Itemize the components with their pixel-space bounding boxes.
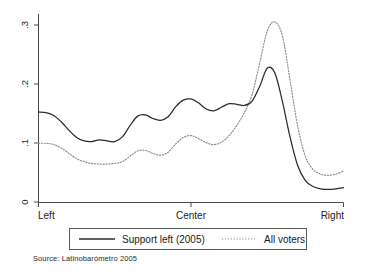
x-tick-label-center: Center: [176, 210, 207, 221]
x-tick-label-left: Left: [38, 210, 55, 221]
plot-axes: [39, 14, 344, 203]
chart-figure: .3 .2 .1 0 Left Center Right Support lef…: [0, 0, 368, 278]
x-tick-label-right: Right: [321, 210, 345, 221]
y-tick-label-1: .1: [19, 139, 30, 147]
y-tick-label-3: .3: [19, 21, 30, 29]
chart-legend: Support left (2005) All voters: [70, 229, 307, 250]
legend-label-support-left: Support left (2005): [122, 234, 205, 245]
y-tick-label-0: 0: [19, 199, 30, 204]
density-plot: .3 .2 .1 0 Left Center Right Support lef…: [0, 0, 368, 278]
y-tick-label-2: .2: [19, 80, 30, 88]
legend-label-all-voters: All voters: [264, 234, 305, 245]
source-note: Source: Latinobarómetro 2005: [33, 254, 137, 263]
